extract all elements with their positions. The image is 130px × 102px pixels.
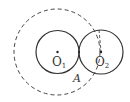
label-o2: O2 <box>95 55 109 70</box>
geometry-diagram: O1 O2 A <box>0 0 130 102</box>
center-o1-dot <box>56 51 58 53</box>
center-o2-dot <box>100 51 102 53</box>
label-o1: O1 <box>52 55 66 70</box>
label-a: A <box>72 72 81 85</box>
arrow-to-o2 <box>99 30 101 51</box>
tangent-point-dot <box>78 51 80 53</box>
